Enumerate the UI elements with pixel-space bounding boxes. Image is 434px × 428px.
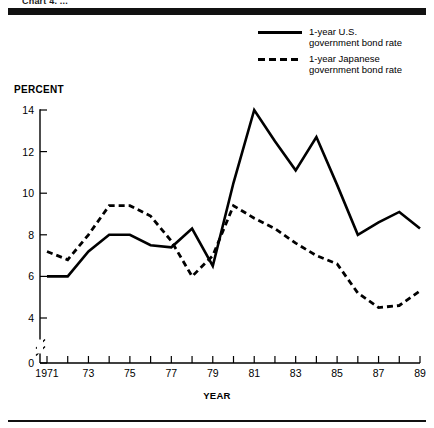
y-tick-label: 4 <box>28 312 34 324</box>
axis-break-mask <box>37 340 43 354</box>
x-tick-label: 87 <box>373 367 385 379</box>
line-chart-plot: 0468101214 1971737577798183858789 <box>0 0 434 428</box>
x-tick-label: 81 <box>248 367 260 379</box>
y-tick-label: 12 <box>22 146 34 158</box>
y-axis-ticks <box>40 110 47 363</box>
x-tick-label: 1971 <box>35 367 59 379</box>
y-tick-label: 6 <box>28 270 34 282</box>
x-tick-label: 75 <box>124 367 136 379</box>
y-axis-tick-labels: 0468101214 <box>22 104 34 369</box>
y-tick-label: 14 <box>22 104 34 116</box>
x-tick-label: 85 <box>331 367 343 379</box>
y-tick-label: 0 <box>28 357 34 369</box>
x-tick-label: 79 <box>207 367 219 379</box>
series-line-us <box>47 110 420 276</box>
series-line-japan <box>47 206 420 308</box>
x-tick-label: 83 <box>290 367 302 379</box>
x-tick-label: 77 <box>165 367 177 379</box>
x-tick-label: 89 <box>414 367 426 379</box>
x-axis-tick-labels: 1971737577798183858789 <box>35 367 426 379</box>
y-tick-label: 8 <box>28 229 34 241</box>
x-axis-ticks <box>47 356 420 363</box>
y-tick-label: 10 <box>22 187 34 199</box>
x-tick-label: 73 <box>83 367 95 379</box>
bottom-rule-divider <box>8 420 426 422</box>
